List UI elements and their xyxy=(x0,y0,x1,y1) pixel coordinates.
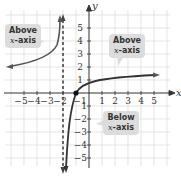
svg-text:−5: −5 xyxy=(74,153,88,163)
svg-text:3: 3 xyxy=(77,49,83,59)
y-axis-label: y xyxy=(91,0,98,11)
svg-text:3: 3 xyxy=(125,96,131,106)
svg-text:−4: −4 xyxy=(74,140,88,150)
svg-text:1: 1 xyxy=(77,75,83,85)
svg-text:−5: −5 xyxy=(14,96,28,106)
callout-below: Below x-axis xyxy=(103,111,139,135)
svg-text:−3: −3 xyxy=(74,127,88,137)
callout-above-left: Above x-axis xyxy=(5,24,41,48)
svg-text:5: 5 xyxy=(151,96,157,106)
svg-text:5: 5 xyxy=(77,23,83,33)
callout-line1: Above xyxy=(8,26,38,36)
callout-line1: Below xyxy=(106,113,136,123)
svg-text:−3: −3 xyxy=(40,96,54,106)
svg-text:−4: −4 xyxy=(27,96,41,106)
svg-text:1: 1 xyxy=(81,101,87,111)
svg-text:−2: −2 xyxy=(53,96,66,106)
x-intercept-point xyxy=(73,90,78,95)
svg-text:−2: −2 xyxy=(74,114,87,124)
callout-line2: x-axis xyxy=(106,123,136,133)
callout-above-right: Above x-axis xyxy=(109,34,145,58)
svg-text:4: 4 xyxy=(77,36,83,46)
svg-text:4: 4 xyxy=(138,96,144,106)
arrowhead-left-end xyxy=(6,64,13,69)
svg-text:1: 1 xyxy=(99,96,105,106)
x-axis-label: x xyxy=(176,87,181,98)
svg-text:2: 2 xyxy=(77,62,83,72)
callout-line2: x-axis xyxy=(8,36,38,46)
callout-line1: Above xyxy=(112,36,142,46)
svg-text:2: 2 xyxy=(112,96,118,106)
arrowhead-right-end xyxy=(153,73,160,78)
callout-line2: x-axis xyxy=(112,46,142,56)
